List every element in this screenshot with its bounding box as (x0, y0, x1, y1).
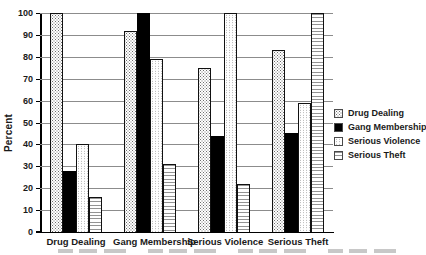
x-category-label: Drug Dealing (39, 236, 113, 247)
bar-serious-theft-in-gang-membership (163, 164, 176, 232)
gridline-50 (40, 123, 333, 124)
y-tick-label-40: 40 (23, 139, 33, 149)
gridline-60 (40, 101, 333, 102)
plot-area (40, 13, 333, 232)
bar-drug-dealing-in-serious-violence (198, 68, 211, 232)
y-tick-label-60: 60 (23, 96, 33, 106)
y-tick-label-70: 70 (23, 74, 33, 84)
y-tick-label-0: 0 (28, 227, 33, 237)
y-tick-label-30: 30 (23, 161, 33, 171)
bar-serious-violence-in-serious-theft (298, 103, 311, 232)
legend-swatch-dots-dark-icon (334, 109, 343, 118)
y-tick-label-10: 10 (23, 205, 33, 215)
legend-item: Gang Membership (334, 120, 426, 134)
bar-serious-violence-in-gang-membership (150, 59, 163, 232)
bar-drug-dealing-in-gang-membership (124, 31, 137, 232)
y-tick-label-80: 80 (23, 52, 33, 62)
legend-item: Drug Dealing (334, 106, 426, 120)
grouped-bar-chart: Percent 0102030405060708090100 Drug Deal… (0, 0, 426, 255)
y-tick-label-50: 50 (23, 118, 33, 128)
bar-gang-membership-in-drug-dealing (63, 171, 76, 232)
legend-item: Serious Violence (334, 134, 426, 148)
bar-drug-dealing-in-serious-theft (272, 50, 285, 232)
x-category-label: Serious Theft (261, 236, 335, 247)
legend-label: Drug Dealing (348, 108, 404, 118)
y-axis-ticks: 0102030405060708090100 (0, 13, 40, 232)
y-tick-label-90: 90 (23, 30, 33, 40)
gridline-70 (40, 79, 333, 80)
bar-serious-theft-in-serious-theft (311, 13, 324, 232)
legend-label: Serious Theft (348, 150, 406, 160)
legend-swatch-solid-black-icon (334, 123, 343, 132)
legend-swatch-dots-light-icon (334, 137, 343, 146)
bar-drug-dealing-in-drug-dealing (50, 13, 63, 232)
x-category-label: Gang Membership (113, 236, 187, 247)
bar-serious-violence-in-serious-violence (224, 13, 237, 232)
gridline-100 (40, 13, 333, 14)
gridline-90 (40, 35, 333, 36)
x-axis-line (36, 232, 334, 234)
bar-gang-membership-in-serious-theft (285, 133, 298, 232)
legend-label: Gang Membership (348, 122, 426, 132)
bar-gang-membership-in-gang-membership (137, 13, 150, 232)
y-tick-label-20: 20 (23, 183, 33, 193)
legend: Drug DealingGang MembershipSerious Viole… (334, 106, 426, 162)
bar-serious-violence-in-drug-dealing (76, 144, 89, 232)
x-category-label: Serious Violence (187, 236, 261, 247)
bar-gang-membership-in-serious-violence (211, 136, 224, 232)
gridline-80 (40, 57, 333, 58)
bar-serious-theft-in-serious-violence (237, 184, 250, 232)
x-axis-labels: Drug DealingGang MembershipSerious Viole… (40, 236, 333, 249)
y-tick-label-100: 100 (18, 8, 33, 18)
bar-serious-theft-in-drug-dealing (89, 197, 102, 232)
legend-item: Serious Theft (334, 148, 426, 162)
legend-label: Serious Violence (348, 136, 420, 146)
cropped-caption-remnant (58, 249, 416, 253)
legend-swatch-hlines-icon (334, 151, 343, 160)
